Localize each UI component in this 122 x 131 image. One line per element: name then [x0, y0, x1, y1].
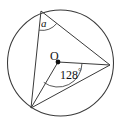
- radius-center-to-right: [58, 62, 110, 65]
- circle-geometry-diagram: O a 128°: [0, 0, 122, 131]
- angle-a-label: a: [41, 18, 47, 29]
- angle-128-label: 128°: [60, 68, 81, 81]
- geometry-canvas: [0, 0, 122, 131]
- degree-symbol: °: [78, 67, 81, 76]
- angle-128-value: 128: [60, 68, 78, 82]
- center-label-O: O: [50, 50, 59, 62]
